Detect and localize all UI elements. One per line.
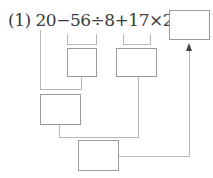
bracket-multiplication-bottom bbox=[123, 44, 151, 45]
addition-result-box[interactable] bbox=[78, 140, 119, 171]
expression-text: 20−56÷8+17×2= bbox=[36, 10, 187, 30]
bracket-division-right bbox=[96, 34, 97, 44]
bracket-division-bottom bbox=[67, 44, 97, 45]
bracket-division-left bbox=[67, 34, 68, 44]
line-multiplication-horizontal bbox=[59, 137, 139, 138]
math-expression: (1) 20−56÷8+17×2= bbox=[8, 10, 187, 30]
line-from-multiplication-box bbox=[138, 77, 139, 137]
problem-label: (1) bbox=[8, 10, 31, 30]
line-from-division-box bbox=[81, 77, 82, 90]
answer-box[interactable] bbox=[169, 10, 210, 40]
line-to-answer-vertical bbox=[189, 48, 190, 157]
division-result-box[interactable] bbox=[67, 48, 97, 77]
bracket-multiplication-left bbox=[123, 34, 124, 44]
arrow-up-icon bbox=[186, 43, 192, 51]
multiplication-result-box[interactable] bbox=[116, 48, 157, 77]
line-from-20 bbox=[40, 30, 41, 90]
subtraction-result-box[interactable] bbox=[40, 94, 81, 125]
bracket-multiplication-right bbox=[150, 34, 151, 44]
line-from-subtraction-box bbox=[59, 125, 60, 138]
line-20-horizontal bbox=[40, 89, 82, 90]
line-to-answer-horizontal bbox=[119, 156, 190, 157]
